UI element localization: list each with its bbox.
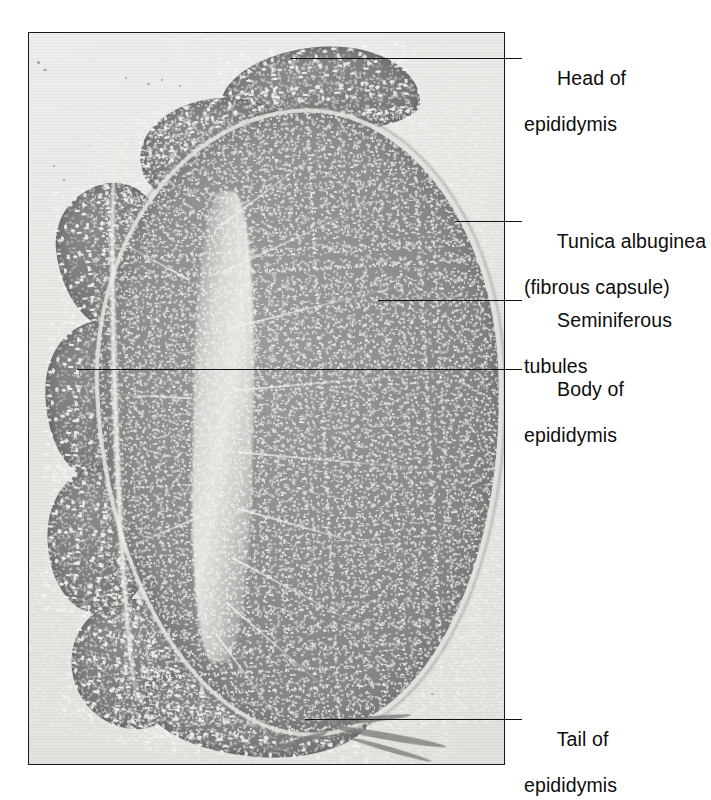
slide-debris [43,69,47,71]
slide-debris [125,77,127,79]
label-line-2: tubules [524,355,672,378]
label-line-1: Tail of [557,728,609,750]
label-tunica-albuginea: Tunica albuginea (fibrous capsule) [524,207,706,345]
label-line-1: Head of [557,67,626,89]
slide-debris [63,179,65,181]
label-seminiferous-tubules: Seminiferous tubules [524,286,672,424]
label-line-1: Body of [557,378,624,400]
label-line-2: epididymis [524,113,626,136]
label-head-of-epididymis: Head of epididymis [524,44,626,182]
micrograph-photo [28,32,505,765]
label-tail-of-epididymis: Tail of epididymis [524,705,617,800]
slide-debris [37,61,40,64]
label-line-1: Seminiferous [557,309,672,331]
label-line-2: epididymis [524,424,624,447]
label-body-of-epididymis: Body of epididymis [524,355,624,493]
label-line-2: (fibrous capsule) [524,276,706,299]
label-line-2: epididymis [524,774,617,797]
label-line-1: Tunica albuginea [557,230,706,252]
slide-debris [53,165,55,167]
